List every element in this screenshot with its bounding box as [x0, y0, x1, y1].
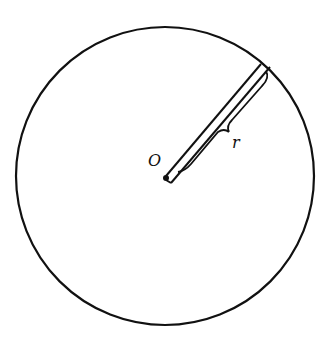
circle-diagram: O r: [0, 0, 330, 338]
center-point: [163, 175, 169, 181]
radius-label: r: [232, 133, 241, 152]
radius-segment: [166, 64, 270, 183]
diagram-svg: O r: [0, 0, 330, 338]
center-label: O: [148, 151, 161, 170]
